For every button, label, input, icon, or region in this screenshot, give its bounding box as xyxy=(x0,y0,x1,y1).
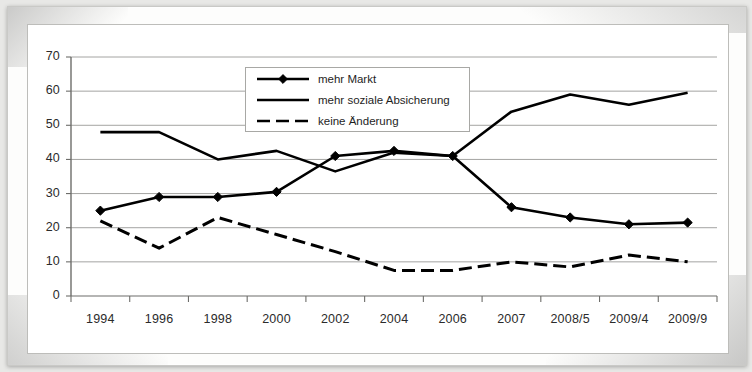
series-marker-diamond xyxy=(566,213,575,222)
legend-label: keine Änderung xyxy=(318,115,399,127)
y-tick-label: 40 xyxy=(30,151,60,165)
legend-swatch-line-with-diamond-marker xyxy=(255,72,311,86)
legend-swatch-dashed-line xyxy=(255,114,311,128)
y-tick-label: 20 xyxy=(30,220,60,234)
legend-swatch-solid-line xyxy=(255,93,311,107)
x-axis-ticks xyxy=(71,296,717,302)
series-line-2 xyxy=(100,217,687,270)
y-tick-label: 10 xyxy=(30,254,60,268)
legend-item: mehr soziale Absicherung xyxy=(246,89,469,110)
series-marker-diamond xyxy=(96,206,105,215)
y-axis-ticks xyxy=(66,57,71,296)
chart-legend: mehr Marktmehr soziale Absicherungkeine … xyxy=(245,67,470,132)
series-line-0 xyxy=(100,151,687,224)
x-tick-label: 2009/9 xyxy=(653,312,723,326)
chart-frame: 010203040506070 199419961998200020022004… xyxy=(27,24,729,354)
y-tick-label: 30 xyxy=(30,186,60,200)
legend-label: mehr Markt xyxy=(318,73,376,85)
y-tick-label: 0 xyxy=(30,288,60,302)
legend-item: mehr Markt xyxy=(246,68,469,89)
legend-item: keine Änderung xyxy=(246,110,469,131)
y-tick-label: 60 xyxy=(30,83,60,97)
y-tick-label: 70 xyxy=(30,49,60,63)
y-tick-label: 50 xyxy=(30,117,60,131)
scanned-page: 010203040506070 199419961998200020022004… xyxy=(7,6,747,366)
series-marker-diamond xyxy=(683,218,692,227)
legend-label: mehr soziale Absicherung xyxy=(318,94,450,106)
chart-screenshot: 010203040506070 199419961998200020022004… xyxy=(0,0,752,372)
